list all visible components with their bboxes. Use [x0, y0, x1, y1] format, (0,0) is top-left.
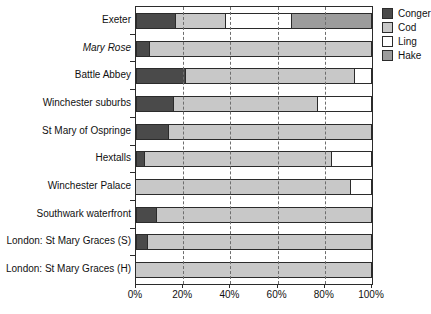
y-axis-tick: [130, 145, 135, 146]
legend-label: Cod: [398, 22, 416, 33]
legend-label: Hake: [398, 50, 421, 61]
gridline-20pct: [183, 7, 184, 284]
bar-segment-ling: [355, 68, 372, 84]
stacked-bar: [136, 68, 372, 84]
bar-segment-cod: [174, 96, 318, 112]
plot-area: [135, 6, 373, 285]
y-axis-tick: [130, 61, 135, 62]
x-axis-tick-label: 20%: [172, 289, 192, 300]
bar-row: [136, 256, 372, 284]
bar-row: [136, 229, 372, 257]
gridline-60pct: [278, 7, 279, 284]
x-axis-tick-label: 60%: [267, 289, 287, 300]
legend-item-hake: Hake: [382, 49, 431, 61]
bar-segment-conger: [136, 68, 186, 84]
x-axis-tick: [229, 284, 230, 288]
category-label: London: St Mary Graces (S): [0, 235, 131, 247]
bar-row: [136, 62, 372, 90]
category-label: Southwark waterfront: [0, 208, 131, 220]
bar-segment-ling: [332, 151, 372, 167]
x-axis-tick: [371, 284, 372, 288]
bar-segment-hake: [292, 13, 372, 29]
bar-segment-cod: [169, 124, 372, 140]
bar-segment-conger: [136, 234, 148, 250]
y-axis-tick: [130, 255, 135, 256]
legend-swatch-ling: [382, 36, 393, 47]
x-axis-tick: [135, 284, 136, 288]
bar-segment-cod: [148, 234, 372, 250]
legend-swatch-hake: [382, 50, 393, 61]
category-label: Exeter: [0, 14, 131, 26]
y-axis-tick: [130, 228, 135, 229]
y-axis-tick: [130, 117, 135, 118]
category-label: Battle Abbey: [0, 69, 131, 81]
legend-label: Ling: [398, 36, 417, 47]
x-axis-tick: [324, 284, 325, 288]
bar-row: [136, 146, 372, 174]
bar-segment-conger: [136, 96, 174, 112]
bar-segment-ling: [226, 13, 292, 29]
bar-row: [136, 7, 372, 35]
category-label: Hextalls: [0, 152, 131, 164]
x-axis-tick-label: 80%: [314, 289, 334, 300]
bar-segment-conger: [136, 207, 157, 223]
category-label: Mary Rose: [0, 42, 131, 54]
bar-segment-cod: [136, 179, 351, 195]
x-axis-tick-label: 0%: [128, 289, 142, 300]
bar-row: [136, 118, 372, 146]
legend: CongerCodLingHake: [382, 7, 431, 61]
x-axis-tick-label: 40%: [219, 289, 239, 300]
bar-segment-ling: [351, 179, 372, 195]
bar-segment-conger: [136, 13, 176, 29]
category-label: Winchester suburbs: [0, 97, 131, 109]
bar-row: [136, 201, 372, 229]
stacked-bar: [136, 179, 372, 195]
bar-row: [136, 90, 372, 118]
bar-segment-conger: [136, 124, 169, 140]
bar-segment-ling: [318, 96, 372, 112]
stacked-bar: [136, 262, 372, 278]
bar-segment-conger: [136, 151, 145, 167]
x-axis-tick: [182, 284, 183, 288]
gridline-40pct: [230, 7, 231, 284]
bar-rows: [136, 7, 372, 284]
y-axis-tick: [130, 89, 135, 90]
bar-row: [136, 35, 372, 63]
bar-segment-cod: [157, 207, 372, 223]
legend-label: Conger: [398, 8, 431, 19]
legend-swatch-cod: [382, 22, 393, 33]
stacked-bar: [136, 13, 372, 29]
bar-segment-cod: [136, 262, 372, 278]
stacked-bar: [136, 207, 372, 223]
bar-segment-conger: [136, 41, 150, 57]
category-label: Winchester Palace: [0, 180, 131, 192]
bar-row: [136, 173, 372, 201]
category-label: St Mary of Ospringe: [0, 125, 131, 137]
stacked-bar: [136, 234, 372, 250]
y-axis-tick: [130, 200, 135, 201]
category-label: London: St Mary Graces (H): [0, 263, 131, 275]
bar-segment-cod: [186, 68, 356, 84]
stacked-bar: [136, 151, 372, 167]
y-axis-tick: [130, 34, 135, 35]
legend-item-cod: Cod: [382, 21, 431, 33]
legend-item-ling: Ling: [382, 35, 431, 47]
legend-swatch-conger: [382, 8, 393, 19]
bar-segment-cod: [145, 151, 331, 167]
stacked-bar: [136, 41, 372, 57]
stacked-bar: [136, 96, 372, 112]
x-axis-tick: [277, 284, 278, 288]
y-axis-tick: [130, 172, 135, 173]
legend-item-conger: Conger: [382, 7, 431, 19]
stacked-bar: [136, 124, 372, 140]
x-axis-tick-label: 100%: [358, 289, 384, 300]
gridline-80pct: [325, 7, 326, 284]
stacked-bar-chart: ExeterMary RoseBattle AbbeyWinchester su…: [0, 0, 431, 314]
